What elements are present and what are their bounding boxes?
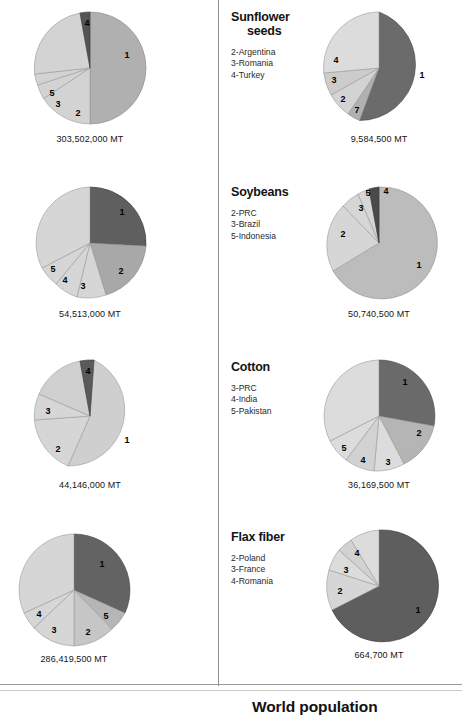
legend-item: 5-Indonesia (231, 231, 326, 242)
chart-title-text: s (0, 10, 12, 24)
pie-svg-grains-2: 1 2 3 4 5 (30, 183, 150, 303)
slice-label-2: 2 (55, 444, 60, 454)
chart-textblock-cotton: Cotton 3-PRC 4-India 5-Pakistan (231, 360, 326, 417)
pie-svg-sunflower-seeds: 1 7 2 3 4 (319, 8, 439, 128)
chart-title-cotton: Cotton (231, 360, 326, 374)
slice-label-3: 3 (55, 99, 60, 109)
total-label-soybeans: 50,740,500 MT (319, 309, 439, 319)
slice-label-3: 3 (51, 625, 56, 635)
chart-title-flax-fiber: Flax fiber (231, 530, 326, 544)
slice-label-2: 2 (75, 108, 80, 118)
slice-label-2: 2 (337, 586, 342, 596)
slice-label-1: 1 (402, 377, 407, 387)
pie-cotton: 1 2 3 4 5 (319, 356, 439, 476)
pie-slices (34, 12, 146, 124)
slice-label-3: 3 (358, 203, 363, 213)
chart-textblock-sunflower-seeds: Sunflower seeds 2-Argentina 3-Romania 4-… (231, 10, 326, 81)
slice-label-4: 4 (360, 455, 365, 465)
pie-grains-4: 1 5 2 3 4 (14, 530, 134, 650)
footer-title: World population (252, 698, 378, 717)
pie-slices (19, 534, 130, 646)
slice-label-4: 4 (333, 55, 338, 65)
chart-title-soybeans: Soybeans (231, 185, 326, 199)
chart-textblock-soybeans: Soybeans 2-PRC 3-Brazil 5-Indonesia (231, 185, 326, 242)
pie-slices (324, 360, 435, 471)
total-label-sunflower-seeds: 9,584,500 MT (319, 134, 439, 144)
legend-item: 4-Romania (231, 576, 326, 587)
slice-label-4: 4 (36, 609, 41, 619)
pie-svg-cotton: 1 2 3 4 5 (319, 356, 439, 476)
pie-slice-1 (379, 360, 435, 426)
legend-item: 3-France (231, 564, 326, 575)
pie-grains-2: 1 2 3 4 5 (30, 183, 150, 303)
pie-svg-grains-3: 1 2 3 4 (30, 356, 150, 476)
slice-label-1: 1 (416, 260, 421, 270)
total-label-grains-4: 286,419,500 MT (14, 654, 134, 664)
slice-label-3: 3 (45, 406, 50, 416)
chart-cell-cotton: Cotton 3-PRC 4-India 5-Pakistan 1 2 3 4 … (219, 350, 462, 520)
pie-grains: 1 2 3 5 4 (30, 8, 150, 128)
chart-cell-flax-fiber: Flax fiber 2-Poland 3-France 4-Romania 1… (219, 520, 462, 684)
slice-label-1: 1 (415, 605, 420, 615)
chart-cell-soybeans: Soybeans 2-PRC 3-Brazil 5-Indonesia 1 2 … (219, 175, 462, 350)
slice-label-1: 1 (124, 435, 129, 445)
chart-title-cropped-grains: s (0, 10, 12, 33)
legend-item: 5-Pakistan (231, 406, 326, 417)
legend-item: 2-Argentina (231, 47, 326, 58)
slice-label-5: 5 (341, 443, 346, 453)
pie-soybeans: 1 2 3 5 4 (319, 183, 439, 303)
slice-label-3: 3 (80, 281, 85, 291)
column-divider (218, 0, 219, 686)
total-label-grains: 303,502,000 MT (30, 134, 150, 144)
pie-slice-1 (90, 187, 146, 246)
slice-label-5: 5 (365, 188, 370, 198)
slice-label-1: 1 (119, 207, 124, 217)
total-label-grains-3: 44,146,000 MT (30, 480, 150, 490)
chart-cell-grains-3: 1 2 3 4 44,146,000 MT (0, 350, 218, 520)
slice-label-3: 3 (385, 457, 390, 467)
slice-label-2: 2 (118, 266, 123, 276)
chart-title-sunflower-seeds: Sunflower seeds (231, 10, 326, 38)
chart-title-line2: seeds (231, 24, 326, 38)
pie-sunflower-seeds: 1 7 2 3 4 (319, 8, 439, 128)
chart-legend-flax-fiber: 2-Poland 3-France 4-Romania (231, 553, 326, 587)
slice-label-4: 4 (84, 18, 89, 28)
pie-flax-fiber: 1 2 3 4 (319, 526, 439, 646)
slice-label-3: 3 (331, 75, 336, 85)
slice-label-2: 2 (85, 627, 90, 637)
legend-item: 3-Brazil (231, 219, 326, 230)
chart-textblock-flax-fiber: Flax fiber 2-Poland 3-France 4-Romania (231, 530, 326, 587)
slice-label-4: 4 (354, 548, 359, 558)
footer-rule-top (0, 684, 462, 685)
slice-label-3: 3 (343, 565, 348, 575)
pie-slice-1 (90, 12, 146, 124)
chart-cell-grains-2: 1 2 3 4 5 54,513,000 MT (0, 175, 218, 350)
pie-slices (324, 12, 416, 121)
legend-item: 4-Turkey (231, 70, 326, 81)
pie-slice-4 (324, 12, 379, 73)
legend-item: 3-Romania (231, 58, 326, 69)
slice-label-4: 4 (62, 275, 67, 285)
chart-cell-sunflower-seeds: Sunflower seeds 2-Argentina 3-Romania 4-… (219, 0, 462, 175)
pie-slices (327, 187, 438, 299)
slice-label-1: 1 (124, 50, 129, 60)
pie-grains-3: 1 2 3 4 (30, 356, 150, 476)
legend-item: 4-India (231, 394, 326, 405)
slice-label-7: 7 (354, 105, 359, 115)
chart-cell-grains-4: 1 5 2 3 4 286,419,500 MT (0, 520, 218, 684)
total-label-grains-2: 54,513,000 MT (30, 309, 150, 319)
pie-svg-flax-fiber: 1 2 3 4 (319, 526, 439, 646)
legend-item: 2-PRC (231, 208, 326, 219)
slice-label-5: 5 (50, 264, 55, 274)
total-label-cotton: 36,169,500 MT (319, 480, 439, 490)
slice-label-2: 2 (340, 94, 345, 104)
legend-item: 3-PRC (231, 383, 326, 394)
slice-label-1: 1 (99, 559, 104, 569)
slice-label-5: 5 (49, 88, 54, 98)
pie-slices (36, 187, 146, 298)
pie-svg-soybeans: 1 2 3 5 4 (319, 183, 439, 303)
total-label-flax-fiber: 664,700 MT (319, 650, 439, 660)
footer-rule-bottom (0, 690, 462, 691)
slice-label-2: 2 (416, 428, 421, 438)
pie-slices (327, 530, 439, 642)
